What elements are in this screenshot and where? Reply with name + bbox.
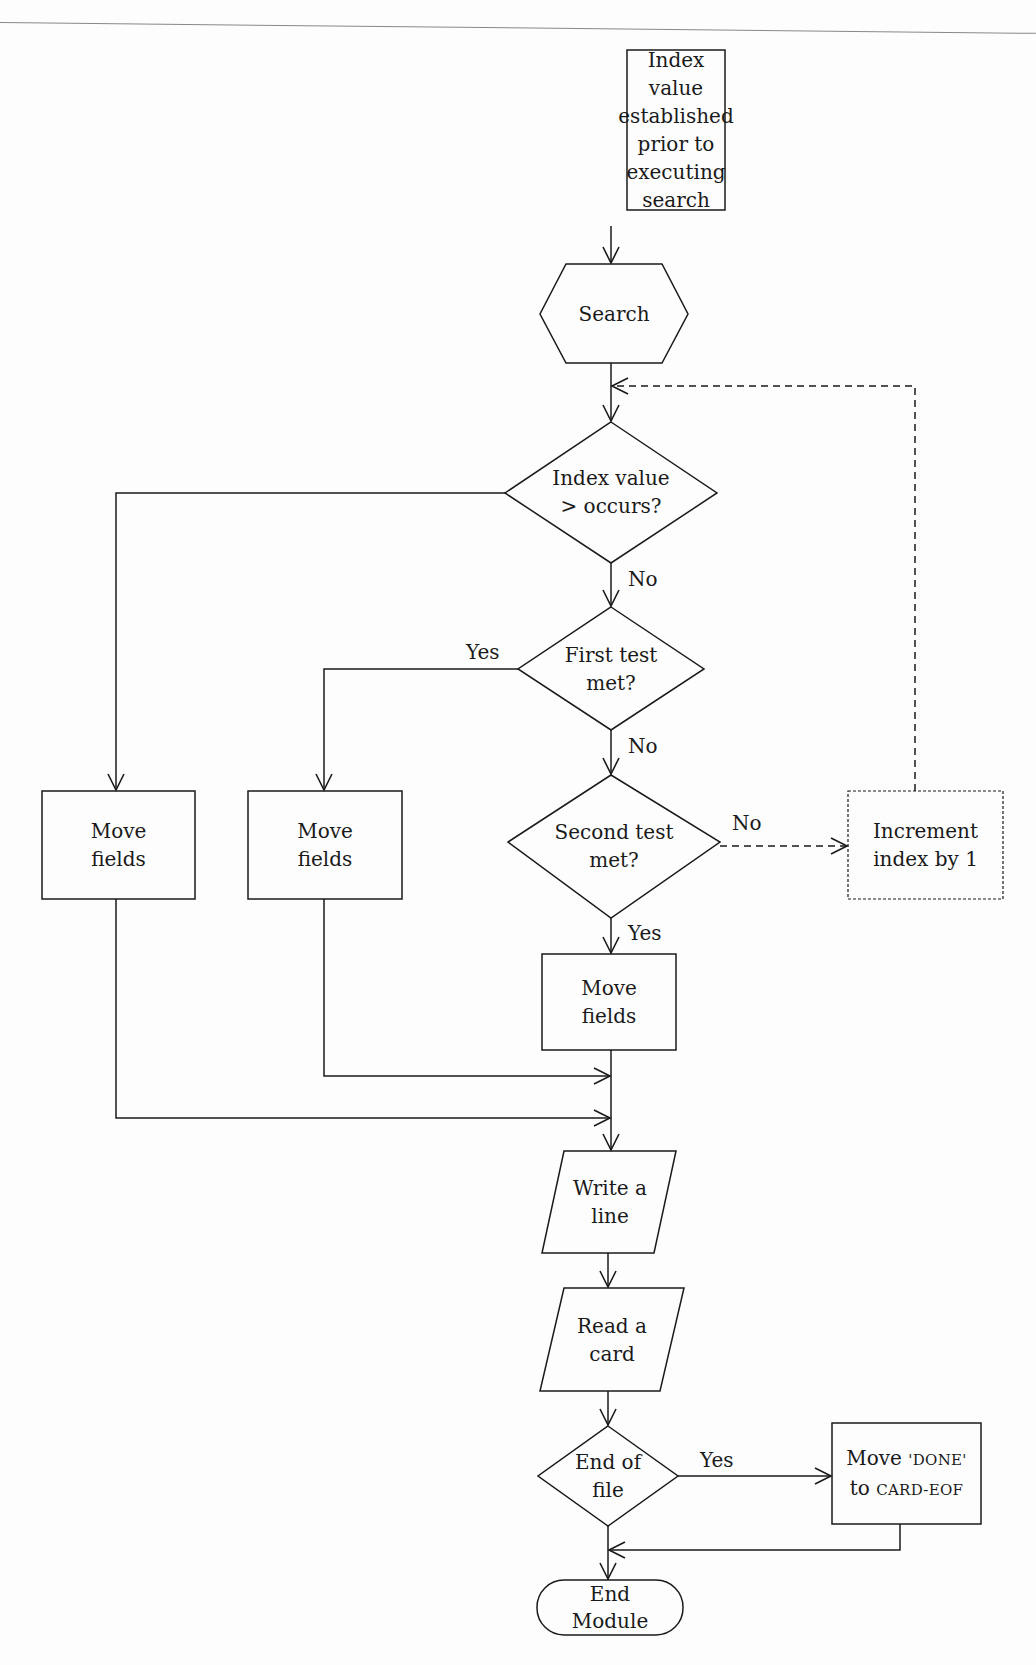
node-move-mid-line: fields (298, 845, 353, 873)
node-occurs: Index value > occurs? (505, 452, 717, 532)
node-occurs-line: Index value (552, 464, 669, 492)
node-occurs-line: > occurs? (561, 492, 662, 520)
node-init-line: Index value (627, 46, 725, 102)
node-search-line: Search (578, 300, 649, 328)
node-init-line: search (642, 186, 710, 214)
node-end-line: Module (572, 1608, 648, 1635)
node-move-right-line: fields (582, 1002, 637, 1030)
node-eof: End of file (538, 1440, 678, 1512)
node-init-line: prior to (638, 130, 715, 158)
node-move-left-line: Move (91, 817, 147, 845)
node-end-line: End (590, 1581, 630, 1608)
node-search: Search (540, 264, 688, 363)
node-move-right-line: Move (581, 974, 637, 1002)
node-read: Read a card (550, 1288, 674, 1391)
node-second-test-line: met? (589, 846, 639, 874)
node-move-left: Move fields (42, 791, 195, 899)
node-read-line: card (589, 1340, 635, 1368)
node-move-mid-line: Move (297, 817, 353, 845)
node-eof-line: file (592, 1476, 624, 1504)
node-write: Write a line (548, 1151, 672, 1253)
node-end: End Module (537, 1580, 683, 1635)
node-move-left-line: fields (91, 845, 146, 873)
card-eof-field: CARD-EOF (876, 1481, 963, 1499)
move-done-prefix: Move (846, 1446, 908, 1470)
node-write-line: Write a (573, 1174, 647, 1202)
edge-label-first-no: No (628, 735, 658, 757)
node-first-test-line: First test (565, 641, 658, 669)
node-move-done-line-1: Move 'DONE' (846, 1444, 966, 1474)
node-second-test: Second test met? (508, 806, 720, 886)
done-literal: 'DONE' (908, 1451, 966, 1469)
edge-move-left-write (116, 899, 610, 1118)
node-write-line: line (591, 1202, 629, 1230)
node-move-mid: Move fields (248, 791, 402, 899)
edge-first-move-mid (324, 669, 518, 790)
edge-label-second-yes: Yes (628, 922, 662, 944)
node-init-line: executing (626, 158, 725, 186)
node-second-test-line: Second test (555, 818, 674, 846)
edge-label-eof-yes: Yes (700, 1449, 734, 1471)
edge-occurs-move-left (116, 493, 505, 790)
node-move-right: Move fields (542, 954, 676, 1050)
node-init: Index value established prior to executi… (627, 52, 725, 208)
node-init-line: established (618, 102, 733, 130)
edge-label-second-no: No (732, 812, 762, 834)
node-first-test: First test met? (518, 630, 704, 708)
node-eof-line: End of (575, 1448, 641, 1476)
node-increment-line: Increment (873, 817, 978, 845)
node-move-done-line-2: to CARD-EOF (850, 1474, 963, 1504)
node-first-test-line: met? (586, 669, 636, 697)
edge-label-first-yes: Yes (466, 641, 500, 663)
edge-label-occurs-no: No (628, 568, 658, 590)
node-move-done: Move 'DONE' to CARD-EOF (832, 1423, 981, 1524)
edge-move-done-end (609, 1524, 900, 1550)
node-read-line: Read a (577, 1312, 647, 1340)
node-increment-line: index by 1 (873, 845, 978, 873)
node-increment: Increment index by 1 (848, 791, 1003, 899)
to-prefix: to (850, 1476, 876, 1500)
